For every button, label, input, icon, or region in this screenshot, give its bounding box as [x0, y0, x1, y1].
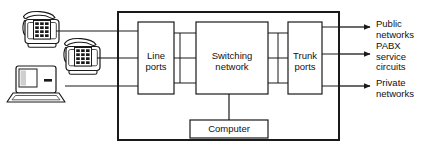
output-label-public-networks: Public networks: [376, 19, 428, 40]
telephone-icon-upper: [23, 11, 59, 47]
pabx-block-diagram: [0, 0, 428, 161]
diagram-canvas: Line ports Switching network Trunk ports…: [0, 0, 428, 161]
output-label-pabx-service-circuits: PABX service circuits: [376, 41, 428, 73]
output-label-private-networks: Private networks: [376, 78, 428, 99]
desktop-computer-icon: [7, 66, 65, 102]
block-switching-network: [196, 22, 268, 94]
telephone-icon-lower: [64, 38, 100, 74]
block-trunk-ports: [288, 22, 322, 94]
block-computer: [190, 120, 268, 138]
block-line-ports: [138, 22, 174, 94]
